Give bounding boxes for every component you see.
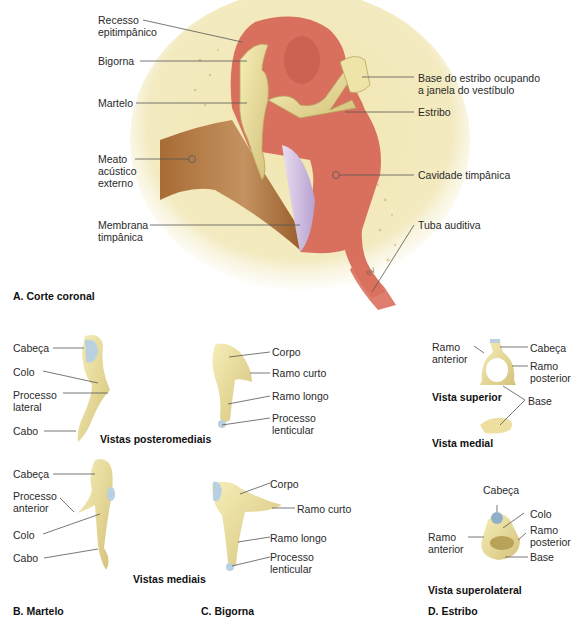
panel-title-b: B. Martelo: [13, 605, 64, 617]
label-c-ramo-curto-bottom: Ramo curto: [297, 503, 351, 515]
label-c-corpo-top: Corpo: [272, 346, 301, 358]
label-bigorna: Bigorna: [98, 55, 134, 67]
view-label-superolateral: Vista superolateral: [428, 584, 522, 596]
label-c-processo-lenticular-bottom: Processo lenticular: [270, 551, 314, 575]
panel-title-d: D. Estribo: [428, 605, 478, 617]
panel-title-a: A. Corte coronal: [13, 290, 95, 302]
label-c-ramo-longo-top: Ramo longo: [272, 390, 329, 402]
panel-title-c: C. Bigorna: [201, 605, 254, 617]
label-recesso-epitimpanico: Recesso epitimpânico: [98, 14, 157, 38]
label-d-ramo-posterior-top: Ramo posterior: [530, 360, 571, 384]
label-b-cabeca-top: Cabeça: [13, 342, 49, 354]
label-c-corpo-bottom: Corpo: [270, 478, 299, 490]
label-b-cabo-top: Cabo: [13, 425, 38, 437]
label-b-colo-bottom: Colo: [13, 529, 35, 541]
label-b-cabo-bottom: Cabo: [13, 552, 38, 564]
stapes-figures: [480, 339, 520, 560]
label-b-cabeca-bottom: Cabeça: [13, 468, 49, 480]
malleus-figures: [78, 335, 115, 570]
label-d-cabeca-top: Cabeça: [530, 342, 566, 354]
label-membrana-timpanica: Membrana timpânica: [98, 219, 148, 243]
view-label-mediais: Vistas mediais: [133, 573, 206, 585]
label-b-colo-top: Colo: [13, 366, 35, 378]
label-tuba-auditiva: Tuba auditiva: [418, 219, 481, 231]
label-d-ramo-anterior-bottom: Ramo anterior: [428, 531, 464, 555]
view-label-vista-medial: Vista medial: [432, 437, 493, 449]
label-estribo: Estribo: [418, 106, 451, 118]
view-label-posteromediais: Vistas posteromediais: [100, 433, 211, 445]
view-label-superior: Vista superior: [432, 391, 502, 403]
label-d-ramo-posterior-bottom: Ramo posterior: [530, 524, 571, 548]
label-c-ramo-longo-bottom: Ramo longo: [270, 532, 327, 544]
label-d-cabeca-bottom: Cabeça: [483, 484, 519, 496]
label-meato-acustico-externo: Meato acústico externo: [98, 153, 137, 189]
coronal-section-figure: [130, 0, 470, 310]
label-cavidade-timpanica: Cavidade timpânica: [418, 169, 510, 181]
label-b-processo-anterior: Processo anterior: [13, 490, 57, 514]
label-b-processo-lateral: Processo lateral: [13, 389, 57, 413]
label-martelo: Martelo: [98, 97, 133, 109]
label-d-ramo-anterior-top: Ramo anterior: [432, 341, 468, 365]
label-base-do-estribo: Base do estribo ocupando a janela do ves…: [418, 72, 540, 96]
label-d-colo-bottom: Colo: [530, 508, 552, 520]
label-d-base-bottom: Base: [530, 551, 554, 563]
label-d-base-top: Base: [528, 395, 552, 407]
label-c-ramo-curto-top: Ramo curto: [272, 367, 326, 379]
label-c-processo-lenticular-top: Processo lenticular: [272, 412, 316, 436]
